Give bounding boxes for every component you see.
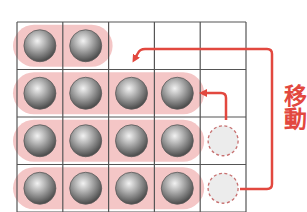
ball <box>24 30 56 62</box>
ball <box>70 172 102 204</box>
move-label: 移動 <box>278 84 306 130</box>
ball <box>161 77 193 109</box>
short-move-arrow <box>202 93 226 120</box>
ball <box>116 125 148 157</box>
ball <box>70 125 102 157</box>
ball <box>24 172 56 204</box>
ball <box>24 77 56 109</box>
ball <box>24 125 56 157</box>
diagram-stage: 移動 <box>0 0 307 212</box>
empty-slot <box>208 173 238 203</box>
ball <box>161 125 193 157</box>
ball <box>116 172 148 204</box>
ball <box>116 77 148 109</box>
empty-slot <box>208 126 238 156</box>
ball-grid-diagram <box>0 0 307 212</box>
ball <box>70 30 102 62</box>
ball <box>161 172 193 204</box>
ball <box>70 77 102 109</box>
